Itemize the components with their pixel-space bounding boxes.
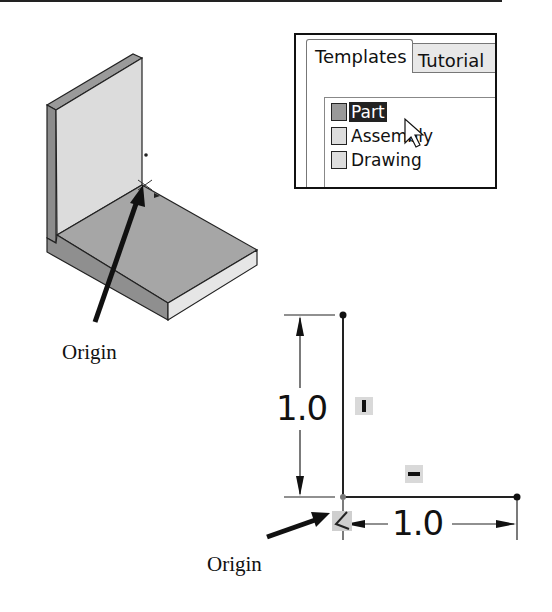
- vertical-relation-icon: [355, 397, 373, 415]
- vertical-dimension[interactable]: 1.0: [276, 388, 327, 428]
- origin-label-model: Origin: [62, 340, 117, 365]
- origin-label-sketch: Origin: [207, 552, 262, 577]
- horizontal-dimension[interactable]: 1.0: [392, 503, 443, 543]
- horizontal-relation-icon: [405, 465, 423, 483]
- tab-templates[interactable]: Templates: [306, 39, 413, 73]
- templates-dialog: Tutorial Templates Part Assembly Drawing: [294, 33, 497, 189]
